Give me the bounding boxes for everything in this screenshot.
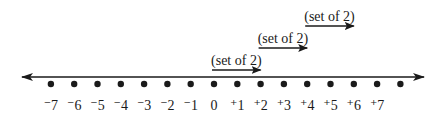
number-dot [234, 81, 240, 87]
number-dot [188, 81, 194, 87]
tick-label: ⁺5 [323, 98, 337, 113]
tick-label: ⁺2 [253, 98, 267, 113]
number-dot [327, 81, 333, 87]
number-dot [374, 81, 380, 87]
tick-label: ⁻1 [184, 98, 198, 113]
tick-label: 0 [211, 98, 218, 113]
number-dot [397, 81, 403, 87]
number-dot [211, 81, 217, 87]
tick-label: ⁻6 [67, 98, 81, 113]
tick-label: ⁺6 [347, 98, 361, 113]
tick-label: ⁺7 [370, 98, 384, 113]
number-dot [164, 81, 170, 87]
number-line-diagram: ⁻7⁻6⁻5⁻4⁻3⁻2⁻10⁺1⁺2⁺3⁺4⁺5⁺6⁺7 (set of 2)… [0, 0, 446, 118]
tick-label: ⁻4 [114, 98, 128, 113]
number-dot [94, 81, 100, 87]
tick-label: ⁻7 [44, 98, 58, 113]
number-dot [71, 81, 77, 87]
number-dot [118, 81, 124, 87]
number-dot [141, 81, 147, 87]
tick-label: ⁻3 [137, 98, 151, 113]
number-dot [351, 81, 357, 87]
number-dot [48, 81, 54, 87]
jump-label: (set of 2) [211, 53, 262, 69]
jump-label: (set of 2) [304, 9, 355, 25]
tick-label: ⁺3 [277, 98, 291, 113]
tick-label: ⁺1 [230, 98, 244, 113]
tick-label: ⁻5 [90, 98, 104, 113]
number-dot [257, 81, 263, 87]
jump-label: (set of 2) [258, 31, 309, 47]
tick-label: ⁺4 [300, 98, 314, 113]
number-dot [281, 81, 287, 87]
number-dot [304, 81, 310, 87]
tick-label: ⁻2 [160, 98, 174, 113]
